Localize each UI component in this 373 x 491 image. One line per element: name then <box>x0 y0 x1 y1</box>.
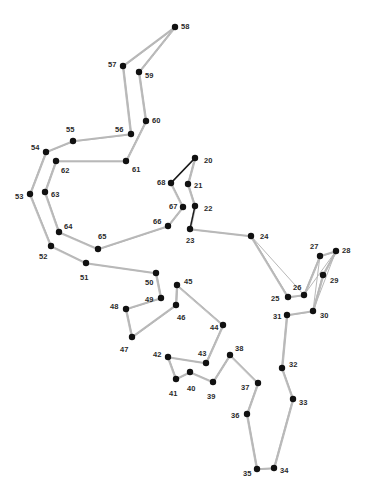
dot-48 <box>123 306 129 312</box>
dot-label-29: 29 <box>330 276 338 285</box>
dot-23 <box>187 226 193 232</box>
dot-46 <box>173 302 179 308</box>
dot-64 <box>56 229 62 235</box>
dot-59 <box>136 69 142 75</box>
dot-38 <box>227 352 233 358</box>
dot-35 <box>254 466 260 472</box>
dot-label-52: 52 <box>39 252 47 261</box>
dot-label-66: 66 <box>153 217 161 226</box>
dot-label-48: 48 <box>110 302 118 311</box>
dot-29 <box>320 272 326 278</box>
dot-65 <box>95 246 101 252</box>
dot-label-65: 65 <box>98 232 106 241</box>
dot-57 <box>120 63 126 69</box>
dot-label-51: 51 <box>80 273 88 282</box>
dot-45 <box>174 282 180 288</box>
dot-67 <box>180 204 186 210</box>
dot-56 <box>128 131 134 137</box>
dot-label-57: 57 <box>108 60 116 69</box>
dot-label-44: 44 <box>210 323 219 332</box>
dot-33 <box>290 396 296 402</box>
dot-61 <box>123 158 129 164</box>
dot-32 <box>279 365 285 371</box>
dot-label-68: 68 <box>157 178 165 187</box>
dot-label-22: 22 <box>204 204 212 213</box>
dot-label-54: 54 <box>31 143 40 152</box>
dot-label-41: 41 <box>169 389 177 398</box>
dot-26 <box>301 292 307 298</box>
dot-36 <box>244 411 250 417</box>
dot-label-64: 64 <box>64 222 73 231</box>
trace-line <box>30 27 336 469</box>
dot-label-47: 47 <box>120 345 128 354</box>
dot-37 <box>255 380 261 386</box>
dot-label-37: 37 <box>241 383 249 392</box>
dot-58 <box>172 24 178 30</box>
dot-label-46: 46 <box>177 313 185 322</box>
dot-label-24: 24 <box>260 232 269 241</box>
dot-24 <box>248 233 254 239</box>
dot-label-39: 39 <box>207 392 215 401</box>
dot-68 <box>168 180 174 186</box>
dot-34 <box>271 465 277 471</box>
dot-label-21: 21 <box>194 181 202 190</box>
dot-51 <box>83 260 89 266</box>
dot-label-38: 38 <box>235 344 243 353</box>
dot-22 <box>192 203 198 209</box>
dot-labels: 2021222324252627282930313233343536373839… <box>15 22 350 478</box>
dot-label-61: 61 <box>132 165 140 174</box>
dot-label-43: 43 <box>198 349 206 358</box>
trace-line <box>251 236 288 297</box>
dot-label-59: 59 <box>145 71 153 80</box>
dot-label-58: 58 <box>181 22 189 31</box>
dot-20 <box>192 155 198 161</box>
dot-63 <box>42 189 48 195</box>
dot-label-45: 45 <box>184 277 192 286</box>
dot-label-67: 67 <box>169 202 177 211</box>
dot-label-25: 25 <box>271 294 279 303</box>
dot-54 <box>43 149 49 155</box>
dot-31 <box>284 312 290 318</box>
dot-label-27: 27 <box>310 242 318 251</box>
dot-label-33: 33 <box>299 398 307 407</box>
dot-42 <box>165 354 171 360</box>
dot-44 <box>220 322 226 328</box>
dot-53 <box>27 191 33 197</box>
dot-label-34: 34 <box>280 466 289 475</box>
dot-30 <box>310 308 316 314</box>
dot-40 <box>187 369 193 375</box>
trace-line <box>31 28 337 470</box>
dot-label-63: 63 <box>51 190 59 199</box>
dot-28 <box>333 248 339 254</box>
dot-43 <box>203 360 209 366</box>
dot-60 <box>143 118 149 124</box>
dot-39 <box>210 379 216 385</box>
dot-52 <box>48 243 54 249</box>
dot-label-42: 42 <box>153 350 161 359</box>
dot-label-49: 49 <box>145 295 153 304</box>
trace-line-dark <box>190 206 195 229</box>
dot-25 <box>285 294 291 300</box>
dot-50 <box>153 270 159 276</box>
dot-label-56: 56 <box>115 125 123 134</box>
trace-line <box>29 28 335 470</box>
dot-label-62: 62 <box>61 166 69 175</box>
dot-label-23: 23 <box>186 236 194 245</box>
dot-49 <box>158 295 164 301</box>
dot-21 <box>185 181 191 187</box>
dot-label-31: 31 <box>273 312 281 321</box>
dot-label-28: 28 <box>342 246 350 255</box>
dot-27 <box>317 253 323 259</box>
dot-label-35: 35 <box>243 469 251 478</box>
dot-label-55: 55 <box>66 125 74 134</box>
pencil-trace-lines <box>29 27 336 470</box>
dot-41 <box>173 376 179 382</box>
dot-66 <box>165 223 171 229</box>
dot-label-20: 20 <box>204 156 212 165</box>
dot-label-30: 30 <box>320 311 328 320</box>
dot-label-40: 40 <box>187 384 195 393</box>
dot-label-53: 53 <box>15 192 23 201</box>
dot-47 <box>129 334 135 340</box>
dot-label-32: 32 <box>289 360 297 369</box>
dot-label-60: 60 <box>152 116 160 125</box>
